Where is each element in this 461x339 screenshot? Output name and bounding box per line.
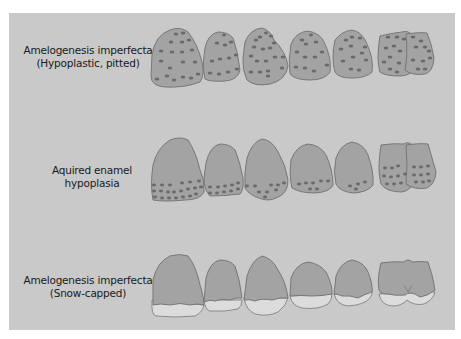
tooth-4 xyxy=(289,31,330,80)
tooth-1 xyxy=(153,255,204,306)
tooth-2-enamel xyxy=(204,300,242,311)
tooth-5 xyxy=(334,260,372,298)
row1-teeth xyxy=(151,28,434,87)
teeth-illustration: .t { fill:#a3a3a3; stroke:#777; stroke-w… xyxy=(0,0,461,339)
tooth-4 xyxy=(290,144,333,193)
tooth-3 xyxy=(244,256,288,301)
tooth-3-enamel xyxy=(244,298,288,315)
tooth-4 xyxy=(290,262,332,296)
tooth-6 xyxy=(378,260,435,297)
tooth-5 xyxy=(335,142,374,193)
row2-teeth xyxy=(152,138,437,201)
row3-teeth xyxy=(152,255,435,318)
tooth-2 xyxy=(204,260,242,302)
